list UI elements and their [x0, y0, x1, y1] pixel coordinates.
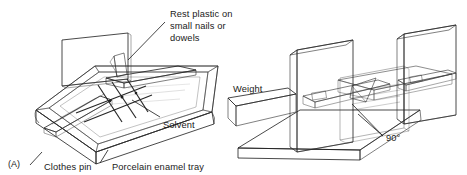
- label-weight: Weight: [233, 84, 263, 94]
- label-solvent: Solvent: [163, 120, 195, 130]
- label-angle: 90°: [386, 133, 401, 143]
- label-rest-plastic-line1: Rest plastic on: [170, 9, 232, 19]
- label-porcelain-tray: Porcelain enamel tray: [112, 162, 204, 172]
- label-rest-plastic-line3: dowels: [170, 33, 200, 43]
- figure-canvas: Rest plastic on small nails or dowels So…: [0, 0, 467, 175]
- label-panel-a: (A): [8, 159, 20, 169]
- label-clothes-pin: Clothes pin: [44, 162, 92, 172]
- technical-illustration: Rest plastic on small nails or dowels So…: [0, 0, 467, 175]
- label-rest-plastic-line2: small nails or: [170, 21, 226, 31]
